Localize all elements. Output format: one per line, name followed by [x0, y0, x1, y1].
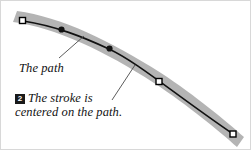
stroke-path-figure: The path 2The stroke is centered on the … [0, 0, 251, 150]
stroke-caption-text-1: The stroke is [28, 91, 93, 105]
anchor-point-middle [156, 79, 162, 85]
stroke-caption-line-1: 2The stroke is [15, 91, 122, 105]
step-number-badge: 2 [15, 94, 25, 104]
path-illustration-artwork [1, 1, 251, 150]
anchor-point-end [230, 131, 236, 137]
stroke-band-shape [13, 11, 244, 147]
leader-line-path [59, 36, 84, 58]
anchor-point-start [20, 18, 26, 24]
direction-point-one [58, 26, 64, 32]
stroke-caption: 2The stroke is centered on the path. [15, 91, 122, 119]
stroke-caption-line-2: centered on the path. [15, 105, 122, 119]
path-caption: The path [19, 61, 64, 75]
direction-point-two [106, 45, 112, 51]
